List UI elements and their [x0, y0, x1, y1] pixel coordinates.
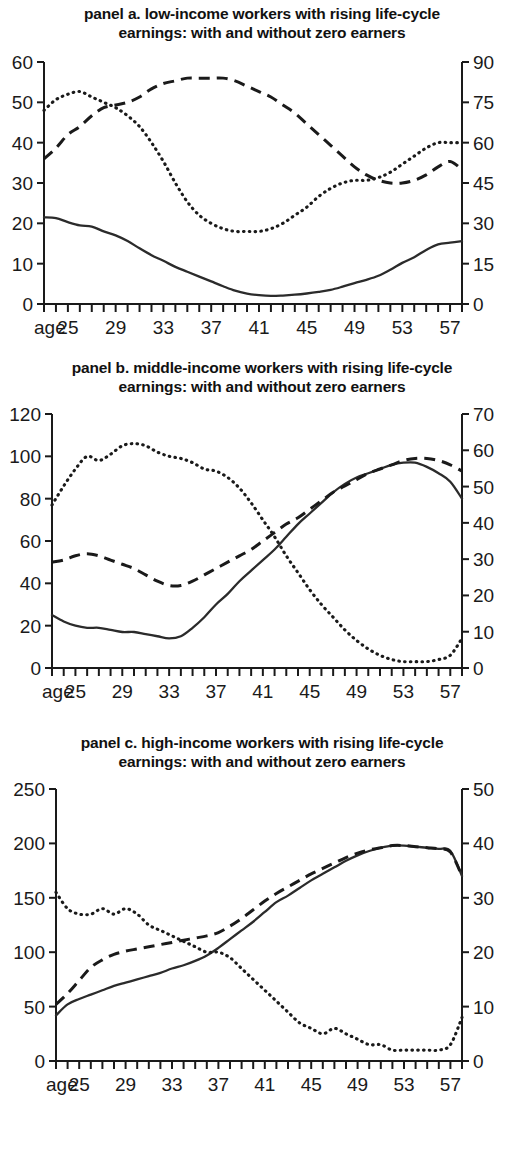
x-axis-tick-label: 37	[201, 317, 222, 338]
x-axis-tick-label: 37	[205, 681, 226, 702]
x-axis-tick-label: 49	[347, 1074, 368, 1095]
x-axis-tick-label: 29	[115, 1074, 136, 1095]
right-axis-tick-label: 10	[473, 622, 494, 643]
left-axis-tick-label: 0	[30, 658, 41, 679]
right-axis-tick-label: 60	[473, 440, 494, 461]
right-axis-tick-label: 30	[473, 888, 494, 909]
left-axis-tick-label: 150	[13, 888, 45, 909]
left-axis-tick-label: 20	[20, 616, 41, 637]
x-axis-tick-label: 57	[440, 1074, 461, 1095]
x-axis-tick-label: 41	[254, 1074, 275, 1095]
x-axis-name-label: age	[42, 681, 74, 702]
right-axis-tick-label: 50	[473, 477, 494, 498]
left-axis-tick-label: 100	[13, 942, 45, 963]
right-axis-tick-label: 60	[473, 133, 494, 154]
x-axis-tick-label: 29	[105, 317, 126, 338]
right-axis-tick-label: 0	[473, 658, 484, 679]
left-axis-tick-label: 60	[12, 52, 33, 73]
right-axis-tick-label: 40	[473, 833, 494, 854]
series-solid-line	[44, 217, 462, 296]
x-axis-tick-label: 41	[252, 681, 273, 702]
panel-a-plot: 0102030405060015304560759025293337414549…	[0, 42, 524, 352]
left-axis-tick-label: 0	[34, 1051, 45, 1072]
left-axis-tick-label: 250	[13, 779, 45, 800]
x-axis-tick-label: 45	[299, 681, 320, 702]
x-axis-name-label: age	[34, 317, 66, 338]
series-dashed-line	[56, 845, 462, 1004]
x-axis-tick-label: 45	[296, 317, 317, 338]
panel-b-plot: 0204060801001200102030405060702529333741…	[0, 396, 524, 726]
left-axis-tick-label: 30	[12, 173, 33, 194]
panel-a-title: panel a. low-income workers with rising …	[0, 0, 524, 42]
panel-a: panel a. low-income workers with rising …	[0, 0, 524, 352]
left-axis-tick-label: 40	[20, 573, 41, 594]
left-axis-tick-label: 120	[9, 404, 41, 425]
right-axis-tick-label: 0	[473, 1051, 484, 1072]
left-axis-tick-label: 60	[20, 531, 41, 552]
left-axis-tick-label: 50	[12, 92, 33, 113]
right-axis-tick-label: 75	[473, 92, 494, 113]
x-axis-tick-label: 49	[344, 317, 365, 338]
x-axis-tick-label: 49	[346, 681, 367, 702]
left-axis-tick-label: 40	[12, 133, 33, 154]
left-axis-tick-label: 10	[12, 254, 33, 275]
right-axis-tick-label: 30	[473, 549, 494, 570]
right-axis-tick-label: 10	[473, 997, 494, 1018]
series-dotted-line	[44, 92, 462, 232]
series-solid-line	[56, 845, 462, 1015]
panel-a-chart-svg: 0102030405060015304560759025293337414549…	[0, 42, 524, 352]
x-axis-tick-label: 57	[439, 317, 460, 338]
x-axis-tick-label: 57	[440, 681, 461, 702]
panel-b-title-line2: earnings: with and without zero earners	[24, 377, 500, 396]
x-axis-tick-label: 45	[301, 1074, 322, 1095]
figure-page: panel a. low-income workers with rising …	[0, 0, 524, 1156]
panel-c-plot: 0501001502002500102030405025293337414549…	[0, 771, 524, 1121]
panel-a-title-line1: panel a. low-income workers with rising …	[24, 4, 500, 23]
panel-c-chart-svg: 0501001502002500102030405025293337414549…	[0, 771, 524, 1121]
panel-b-chart-svg: 0204060801001200102030405060702529333741…	[0, 396, 524, 726]
right-axis-tick-label: 20	[473, 942, 494, 963]
right-axis-tick-label: 45	[473, 173, 494, 194]
panel-a-title-line2: earnings: with and without zero earners	[24, 23, 500, 42]
panel-b: panel b. middle-income workers with risi…	[0, 352, 524, 727]
x-axis-tick-label: 53	[393, 1074, 414, 1095]
right-axis-tick-label: 70	[473, 404, 494, 425]
right-axis-tick-label: 20	[473, 585, 494, 606]
panel-c-title-line1: panel c. high-income workers with rising…	[24, 733, 500, 752]
panel-b-title: panel b. middle-income workers with risi…	[0, 352, 524, 396]
left-axis-tick-label: 100	[9, 446, 41, 467]
right-axis-tick-label: 0	[473, 294, 484, 315]
x-axis-tick-label: 33	[153, 317, 174, 338]
left-axis-tick-label: 50	[24, 997, 45, 1018]
left-axis-tick-label: 200	[13, 833, 45, 854]
series-dotted-line	[52, 444, 462, 662]
x-axis-tick-label: 41	[248, 317, 269, 338]
panel-c-title-line2: earnings: with and without zero earners	[24, 752, 500, 771]
right-axis-tick-label: 50	[473, 779, 494, 800]
panel-b-title-line1: panel b. middle-income workers with risi…	[24, 358, 500, 377]
series-solid-line	[52, 462, 462, 638]
right-axis-tick-label: 90	[473, 52, 494, 73]
right-axis-tick-label: 40	[473, 513, 494, 534]
left-axis-tick-label: 20	[12, 213, 33, 234]
x-axis-tick-label: 53	[392, 317, 413, 338]
right-axis-tick-label: 30	[473, 213, 494, 234]
x-axis-tick-label: 29	[112, 681, 133, 702]
x-axis-tick-label: 53	[393, 681, 414, 702]
left-axis-tick-label: 80	[20, 489, 41, 510]
panel-c: panel c. high-income workers with rising…	[0, 727, 524, 1127]
x-axis-tick-label: 37	[208, 1074, 229, 1095]
x-axis-tick-label: 33	[159, 681, 180, 702]
right-axis-tick-label: 15	[473, 254, 494, 275]
panel-c-title: panel c. high-income workers with rising…	[0, 727, 524, 771]
left-axis-tick-label: 0	[22, 294, 33, 315]
x-axis-tick-label: 33	[161, 1074, 182, 1095]
x-axis-name-label: age	[46, 1074, 78, 1095]
